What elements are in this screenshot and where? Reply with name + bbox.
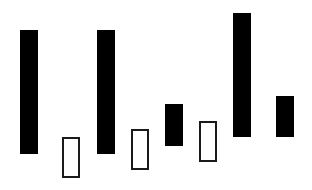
filled-bar-7 bbox=[233, 13, 251, 137]
hollow-bar-6 bbox=[199, 121, 217, 162]
hollow-bar-2 bbox=[62, 137, 80, 178]
filled-bar-3 bbox=[97, 30, 115, 154]
filled-bar-8 bbox=[276, 96, 294, 137]
filled-bar-1 bbox=[20, 30, 38, 154]
filled-bar-5 bbox=[165, 104, 183, 146]
hollow-bar-4 bbox=[131, 129, 149, 170]
floating-bar-chart bbox=[0, 0, 312, 190]
